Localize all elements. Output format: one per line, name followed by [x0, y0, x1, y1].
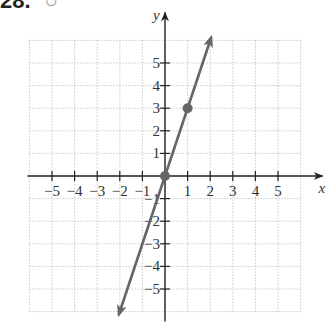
plotted-point: [160, 171, 170, 181]
x-tick-label: 2: [206, 183, 214, 199]
x-axis-label: x: [318, 180, 326, 196]
y-tick-label: 5: [153, 55, 161, 71]
x-tick-label: −4: [67, 183, 83, 199]
x-tick-label: 1: [184, 183, 192, 199]
y-tick-label: −5: [144, 281, 160, 297]
x-tick-label: −2: [112, 183, 128, 199]
x-tick-label: 3: [229, 183, 237, 199]
y-tick-label: 2: [153, 123, 161, 139]
y-axis-label: y: [151, 7, 160, 23]
x-tick-label: −3: [89, 183, 105, 199]
y-tick-label: 4: [153, 78, 161, 94]
y-tick-label: −3: [144, 236, 160, 252]
x-tick-label: −5: [44, 183, 60, 199]
y-tick-label: 3: [153, 100, 161, 116]
y-tick-label: −4: [144, 258, 160, 274]
plotted-point: [183, 103, 193, 113]
x-tick-label: 5: [274, 183, 282, 199]
y-tick-label: 1: [153, 145, 161, 161]
coordinate-plane: −5−4−3−2−112345−5−4−3−2−112345xy: [0, 0, 335, 334]
x-tick-label: 4: [252, 183, 260, 199]
